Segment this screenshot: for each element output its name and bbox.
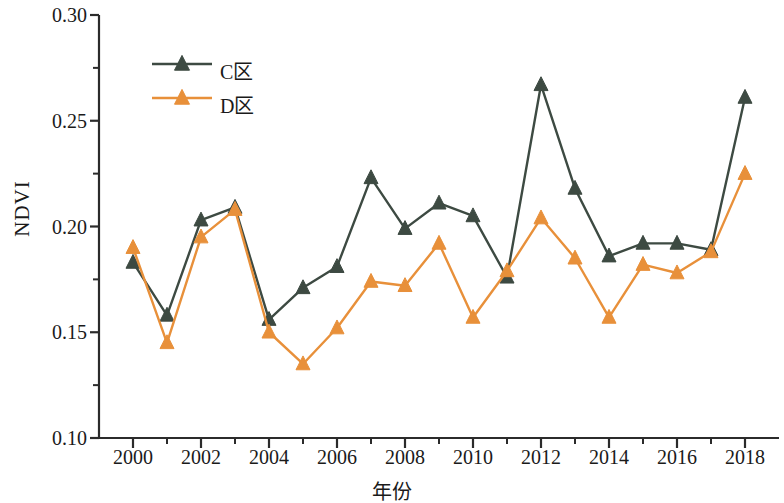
legend-label-d-zone: D区 (220, 90, 254, 119)
ndvi-line-chart: NDVI 年份 0.100.150.200.250.30 20002002200… (0, 0, 784, 503)
data-point-d-zone-2007 (364, 273, 378, 287)
data-point-c-zone-2012 (534, 77, 548, 91)
legend-label-c-zone: C区 (220, 56, 253, 85)
x-tick-label: 2006 (302, 446, 372, 469)
data-point-d-zone-2015 (636, 257, 650, 271)
x-tick-label: 2000 (98, 446, 168, 469)
data-point-d-zone-2009 (432, 235, 446, 249)
x-tick-label: 2016 (642, 446, 712, 469)
data-point-c-zone-2013 (568, 180, 582, 194)
y-tick-label: 0.15 (23, 321, 87, 344)
x-tick-label: 2012 (506, 446, 576, 469)
x-tick-label: 2010 (438, 446, 508, 469)
y-tick-label: 0.30 (23, 4, 87, 27)
x-axis-label: 年份 (0, 476, 784, 503)
x-tick-label: 2002 (166, 446, 236, 469)
x-tick-label: 2004 (234, 446, 304, 469)
y-tick-label: 0.20 (23, 215, 87, 238)
data-point-c-zone-2007 (364, 170, 378, 184)
y-tick-label: 0.10 (23, 427, 87, 450)
data-point-c-zone-2009 (432, 195, 446, 209)
x-tick-label: 2008 (370, 446, 440, 469)
chart-canvas (0, 0, 784, 503)
data-point-d-zone-2018 (738, 166, 752, 180)
data-point-d-zone-2004 (262, 324, 276, 338)
x-tick-label: 2018 (710, 446, 780, 469)
y-tick-label: 0.25 (23, 109, 87, 132)
data-point-d-zone-2000 (126, 240, 140, 254)
x-tick-label: 2014 (574, 446, 644, 469)
data-point-c-zone-2018 (738, 89, 752, 103)
data-point-d-zone-2001 (160, 335, 174, 349)
data-point-c-zone-2006 (330, 259, 344, 273)
data-point-c-zone-2005 (296, 280, 310, 294)
data-point-d-zone-2012 (534, 210, 548, 224)
